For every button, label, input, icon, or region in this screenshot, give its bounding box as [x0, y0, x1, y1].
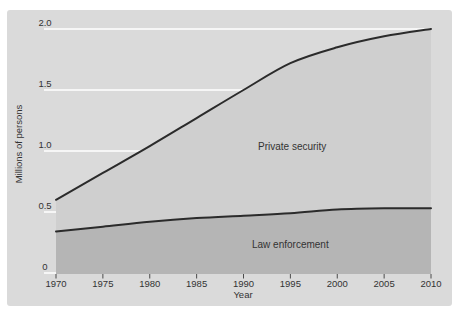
x-tick-label-1975: 1975	[86, 278, 120, 289]
x-tick-label-1970: 1970	[39, 278, 73, 289]
y-axis-title: Millions of persons	[13, 84, 25, 204]
y-tick-label-1.5: 1.5	[30, 78, 60, 89]
x-tick-label-1995: 1995	[273, 278, 307, 289]
y-tick-label-0.5: 0.5	[30, 200, 60, 211]
x-tick-label-2010: 2010	[414, 278, 448, 289]
area-label-law-enforcement: Law enforcement	[252, 239, 329, 250]
y-tick-label-1.0: 1.0	[30, 139, 60, 150]
y-tick-label-0: 0	[30, 261, 60, 272]
x-tick-label-2000: 2000	[320, 278, 354, 289]
x-axis-title: Year	[223, 289, 263, 300]
chart-figure: 00.51.01.52.0197019751980198519901995200…	[0, 0, 457, 313]
x-tick-label-1980: 1980	[133, 278, 167, 289]
area-label-private-security: Private security	[258, 141, 326, 152]
x-tick-label-1990: 1990	[227, 278, 261, 289]
y-tick-label-2.0: 2.0	[30, 17, 60, 28]
x-tick-label-2005: 2005	[367, 278, 401, 289]
stacked-area-chart	[0, 0, 457, 313]
x-tick-label-1985: 1985	[180, 278, 214, 289]
